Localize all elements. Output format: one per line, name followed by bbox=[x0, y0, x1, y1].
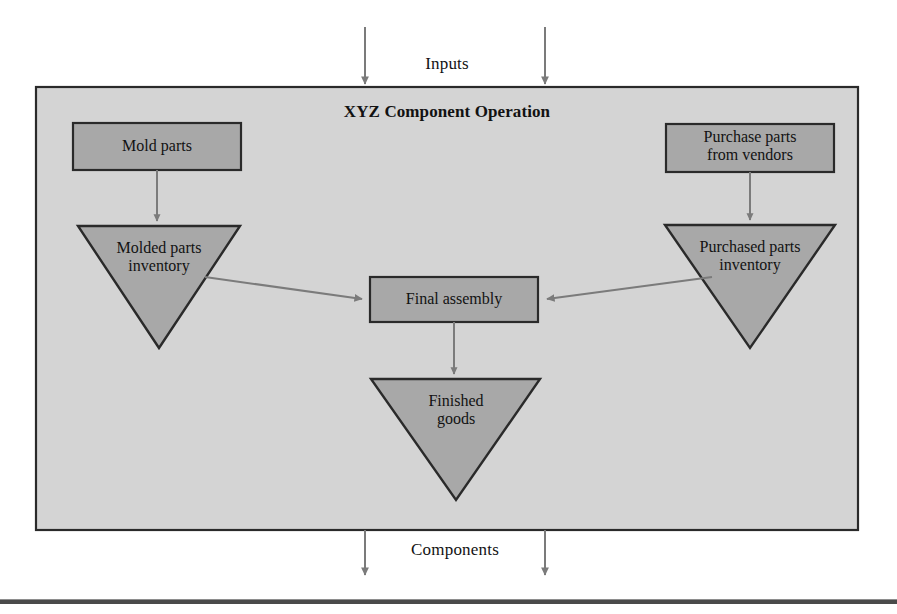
node-mold-parts[interactable] bbox=[73, 123, 241, 170]
process-flow-svg bbox=[0, 0, 897, 614]
bottom-divider bbox=[0, 599, 897, 604]
node-purchase-parts[interactable] bbox=[666, 124, 834, 172]
diagram-canvas: Inputs XYZ Component Operation Mold part… bbox=[0, 0, 897, 614]
node-final-assembly[interactable] bbox=[370, 277, 538, 322]
